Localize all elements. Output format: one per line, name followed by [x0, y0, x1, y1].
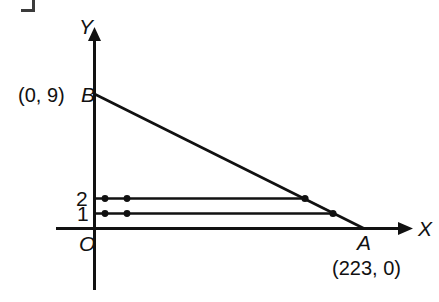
y-axis-label: Y: [79, 16, 93, 37]
x-axis-arrowhead: [398, 222, 413, 235]
point-b-coord-label: (0, 9): [18, 85, 65, 105]
segment-ba: [95, 94, 365, 229]
lattice-point: [329, 210, 336, 217]
coordinate-diagram: Y X O 2 1 (0, 9) B A (223, 0): [0, 0, 439, 302]
origin-label: O: [79, 233, 95, 254]
point-b-label: B: [81, 84, 95, 105]
lattice-point: [124, 210, 131, 217]
lattice-point: [301, 195, 308, 202]
lattice-point: [102, 195, 109, 202]
y-tick-label-1: 1: [77, 203, 89, 224]
point-a-label: A: [357, 232, 371, 253]
lattice-point: [102, 210, 109, 217]
x-axis-label: X: [418, 218, 432, 239]
point-a-coord-label: (223, 0): [332, 258, 401, 278]
lattice-point: [124, 195, 131, 202]
